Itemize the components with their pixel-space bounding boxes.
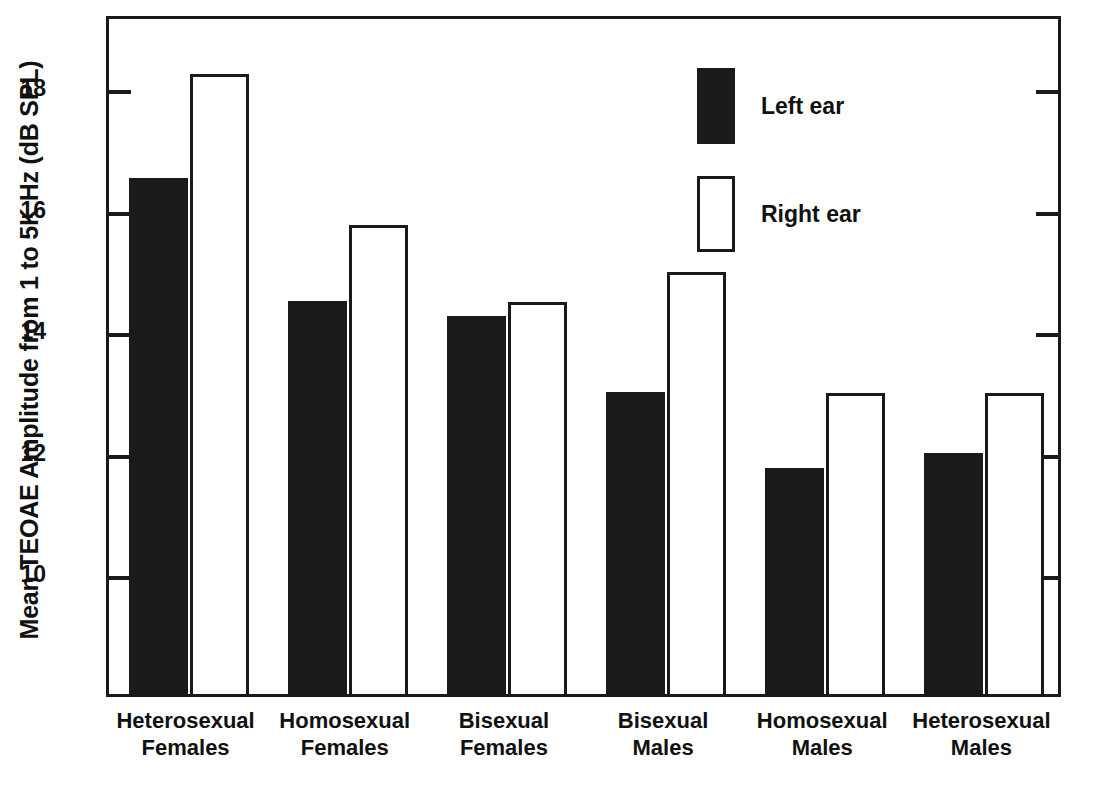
bar-right-ear-group-1 — [190, 74, 249, 694]
legend-label: Left ear — [761, 93, 844, 120]
plot-area: Left earRight ear — [106, 16, 1061, 697]
bar-right-ear-group-3 — [508, 302, 567, 694]
legend-swatch-open — [697, 176, 735, 252]
y-tick-right-14 — [1036, 333, 1058, 337]
y-tick-right-18 — [1036, 90, 1058, 94]
y-tick-label-14: 14 — [2, 320, 46, 343]
plot-inner: Left earRight ear — [109, 19, 1058, 694]
bar-right-ear-group-4 — [667, 272, 726, 694]
bar-left-ear-group-2 — [288, 301, 347, 694]
bar-left-ear-group-6 — [924, 453, 983, 694]
y-tick-left-18 — [109, 90, 131, 94]
bar-right-ear-group-5 — [826, 393, 885, 694]
chart-figure: Mean TEOAE Amplitude from 1 to 5K Hz (dB… — [0, 0, 1112, 792]
bar-left-ear-group-1 — [129, 178, 188, 694]
bar-right-ear-group-2 — [349, 225, 408, 694]
bar-left-ear-group-3 — [447, 316, 506, 694]
y-axis-title: Mean TEOAE Amplitude from 1 to 5K Hz (dB… — [6, 0, 52, 700]
bar-right-ear-group-6 — [985, 393, 1044, 694]
legend-item-right-ear: Right ear — [697, 171, 997, 257]
bar-left-ear-group-4 — [606, 392, 665, 694]
x-axis-label-group-6: Heterosexual Males — [882, 708, 1081, 762]
chart-legend: Left earRight ear — [697, 63, 997, 279]
bar-left-ear-group-5 — [765, 468, 824, 694]
y-tick-right-16 — [1036, 212, 1058, 216]
legend-label: Right ear — [761, 201, 861, 228]
y-tick-label-12: 12 — [2, 442, 46, 465]
legend-swatch-filled — [697, 68, 735, 144]
legend-item-left-ear: Left ear — [697, 63, 997, 149]
y-tick-label-18: 18 — [2, 77, 46, 100]
y-tick-label-16: 16 — [2, 199, 46, 222]
y-tick-label-10: 10 — [2, 563, 46, 586]
